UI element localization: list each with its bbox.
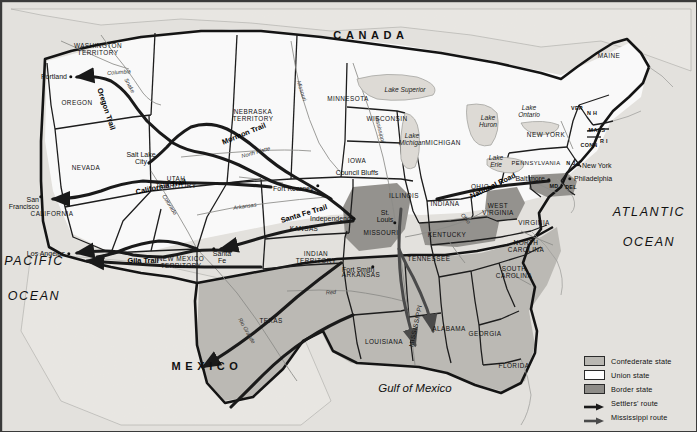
legend-row-settlers-route: Settlers' route [584,397,690,410]
legend-label-confederate: Confederate state [611,357,672,366]
legend-label-border: Border state [611,385,653,394]
legend-row-union: Union state [584,369,690,382]
legend-row-border: Border state [584,383,690,396]
legend-label-union: Union state [611,371,650,380]
legend-label-mississippi-route: Mississippi route [611,413,667,422]
legend-label-settlers-route: Settlers' route [611,399,658,408]
legend-swatch-mississippi-arrow [584,412,605,422]
legend-row-mississippi-route: Mississippi route [584,411,690,424]
map-legend: Confederate state Union state Border sta… [584,355,690,425]
legend-swatch-border [584,384,605,394]
legend-row-confederate: Confederate state [584,355,690,368]
legend-swatch-settlers-arrow [584,398,605,408]
legend-swatch-confederate [584,356,605,366]
historical-map: CANADA MEXICO ATLANTIC OCEAN PACIFIC OCE… [0,0,697,432]
legend-swatch-union [584,370,605,380]
